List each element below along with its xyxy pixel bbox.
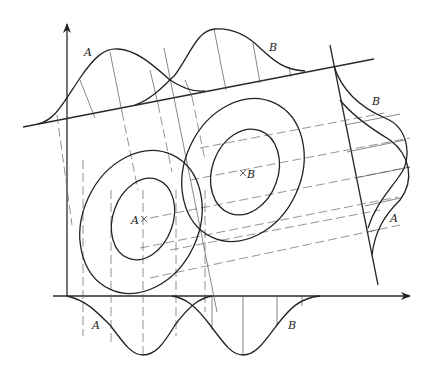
label-right-b: B <box>371 95 380 108</box>
label-top-b: B <box>268 41 277 54</box>
axes <box>23 24 410 312</box>
upper-curve-a <box>38 49 205 124</box>
bottom-marginals <box>67 296 320 355</box>
label-center-a: A <box>130 214 139 227</box>
upper-marginals <box>38 29 305 124</box>
ellipse-b-inner <box>199 119 291 224</box>
label-bottom-b: B <box>287 319 296 332</box>
upper-curve-b <box>135 29 305 105</box>
upper-projection-lines <box>57 29 291 225</box>
center-marker-b <box>240 170 246 176</box>
upper-tilted-axis <box>23 59 374 127</box>
right-projection-lines <box>140 113 410 278</box>
label-right-a: A <box>389 212 398 225</box>
bottom-curve-a <box>67 296 212 355</box>
label-bottom-a: A <box>91 319 100 332</box>
center-marker-a <box>141 216 147 222</box>
distribution-projection-diagram: A B B A A B A B <box>0 0 436 372</box>
right-tilted-axis <box>330 45 378 285</box>
label-center-b: B <box>246 168 255 181</box>
label-top-a: A <box>83 46 92 59</box>
